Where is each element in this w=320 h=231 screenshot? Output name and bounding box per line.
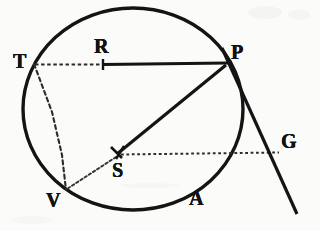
- segment-R-P: [103, 63, 228, 65]
- segment-T-V: [34, 64, 66, 190]
- segment-S-V: [67, 157, 116, 189]
- point-label-A: A: [189, 188, 203, 208]
- geometry-figure: T R P S V A G: [0, 0, 320, 231]
- segment-P-S: [117, 65, 226, 154]
- point-label-T: T: [13, 51, 26, 71]
- point-label-S: S: [112, 160, 123, 180]
- main-circle: [23, 8, 243, 210]
- point-label-V: V: [46, 190, 60, 210]
- point-label-P: P: [231, 42, 243, 62]
- segment-S-G: [121, 153, 279, 155]
- point-label-G: G: [281, 131, 297, 151]
- point-label-R: R: [94, 36, 108, 56]
